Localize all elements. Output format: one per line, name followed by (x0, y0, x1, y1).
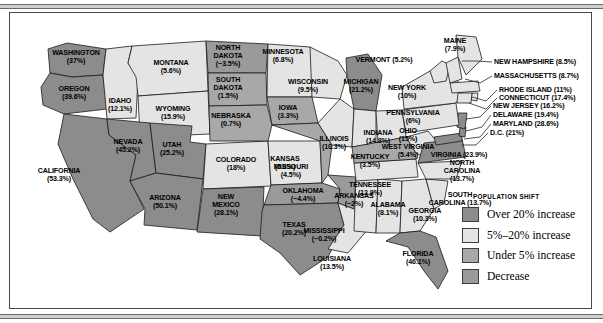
legend-swatch-decrease (462, 269, 479, 284)
map-figure-frame: WASHINGTON(37%) OREGON(39.6%) IDAHO(12.1… (9, 12, 592, 309)
state-shape-colorado (203, 141, 271, 189)
legend-label-5-to-20: 5%–20% increase (487, 229, 570, 242)
state-shape-montana (128, 41, 208, 96)
state-shape-iowa (267, 97, 318, 125)
state-shape-alabama (376, 179, 402, 233)
legend-row-over-20: Over 20% increase (462, 207, 588, 222)
state-shape-south-dakota (208, 73, 267, 106)
state-shape-minnesota (267, 44, 316, 97)
legend-label-over-20: Over 20% increase (487, 208, 575, 221)
legend-swatch-under-5 (462, 248, 479, 263)
legend-row-under-5: Under 5% increase (462, 248, 588, 263)
state-shape-massachusetts (450, 81, 480, 93)
state-shape-michigan (346, 54, 382, 111)
map-legend: POPULATION SHIFT Over 20% increase 5%–20… (462, 193, 588, 289)
legend-row-decrease: Decrease (462, 269, 588, 284)
legend-label-decrease: Decrease (487, 270, 529, 283)
legend-label-under-5: Under 5% increase (487, 249, 575, 262)
us-population-shift-map: WASHINGTON(37%) OREGON(39.6%) IDAHO(12.1… (10, 13, 593, 310)
state-shape-arizona (130, 173, 203, 230)
state-shape-oregon (41, 73, 107, 114)
state-shape-wisconsin (310, 47, 347, 99)
state-shape-nebraska (209, 105, 272, 141)
legend-row-5-to-20: 5%–20% increase (462, 228, 588, 243)
state-shape-new-mexico (197, 187, 264, 236)
state-shape-connecticut (457, 93, 472, 103)
state-shape-washington (48, 43, 106, 77)
state-shape-north-dakota (206, 41, 268, 73)
top-rule (0, 4, 603, 9)
legend-swatch-over-20 (462, 207, 479, 222)
state-shape-indiana (352, 109, 376, 147)
bottom-rule (0, 314, 603, 319)
state-shape-mississippi (354, 177, 378, 233)
state-shape-kansas (268, 141, 322, 185)
legend-swatch-5-to-20 (462, 228, 479, 243)
state-shape-florida (386, 231, 448, 289)
state-shape-oklahoma (264, 183, 340, 205)
legend-title: POPULATION SHIFT (473, 193, 588, 200)
state-shape-north-carolina (418, 161, 462, 179)
state-shape-texas (260, 203, 344, 275)
